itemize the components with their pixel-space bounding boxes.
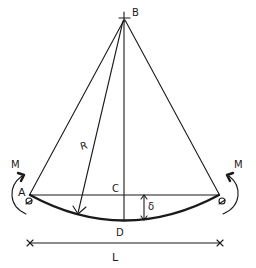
label-c: C [112, 183, 119, 194]
label-delta: δ [148, 201, 154, 212]
bending-diagram: B R δ A C D M M [0, 0, 256, 268]
right-moment-arrow-icon [223, 173, 238, 214]
right-support-icon [219, 198, 225, 204]
label-b: B [132, 7, 139, 18]
label-d: D [116, 227, 124, 238]
label-moment-right: M [234, 159, 243, 170]
label-moment-left: M [11, 159, 20, 170]
label-a: A [18, 186, 26, 199]
label-l: L [112, 251, 119, 264]
left-support-icon [26, 198, 32, 204]
label-r: R [79, 139, 89, 151]
line-b-to-a [30, 20, 124, 194]
line-b-to-right [125, 20, 219, 194]
